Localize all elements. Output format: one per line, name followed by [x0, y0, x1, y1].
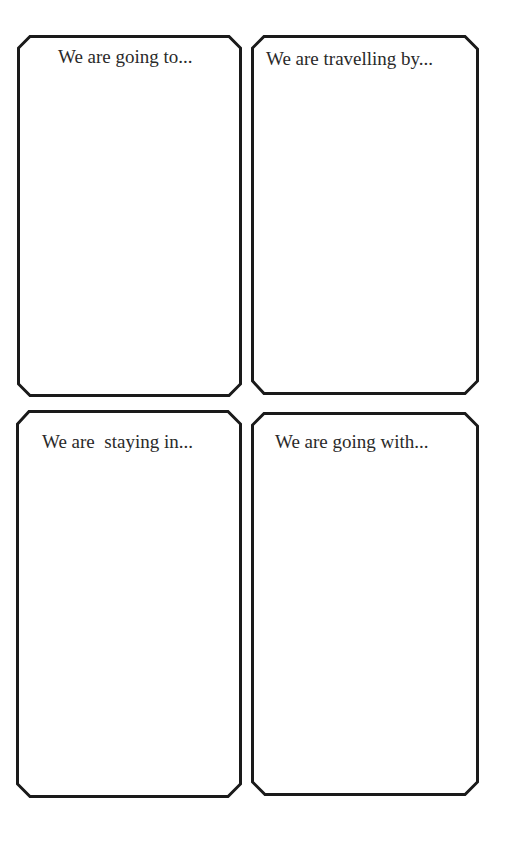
- card-border: [17, 35, 242, 397]
- card-border: [16, 410, 242, 798]
- card-prompt-accommodation: We are staying in...: [42, 432, 193, 451]
- card-accommodation: We are staying in...: [16, 410, 242, 798]
- card-border: [251, 412, 479, 796]
- card-transport: We are travelling by...: [251, 35, 479, 395]
- card-companions: We are going with...: [251, 412, 479, 796]
- card-prompt-transport: We are travelling by...: [266, 49, 433, 68]
- card-destination: We are going to...: [17, 35, 242, 397]
- card-prompt-destination: We are going to...: [58, 47, 193, 66]
- card-prompt-companions: We are going with...: [275, 432, 429, 451]
- card-border: [251, 35, 479, 395]
